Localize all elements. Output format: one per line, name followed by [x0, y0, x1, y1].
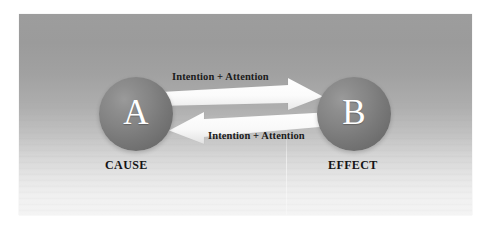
- gradient-background-panel: [19, 14, 472, 215]
- node-a-caption: CAUSE: [105, 158, 148, 173]
- node-b-caption: EFFECT: [328, 158, 378, 173]
- node-b-letter: B: [342, 95, 365, 130]
- arrow-a-to-b-label: Intention + Attention: [172, 71, 269, 82]
- background-texture: [19, 14, 472, 215]
- node-a-letter: A: [123, 95, 148, 130]
- node-a-sphere[interactable]: A: [99, 77, 173, 151]
- arrow-b-to-a-label: Intention + Attention: [208, 130, 305, 141]
- diagram-canvas: A B Intention + Attention Intention + At…: [0, 0, 491, 241]
- node-b-sphere[interactable]: B: [317, 77, 391, 151]
